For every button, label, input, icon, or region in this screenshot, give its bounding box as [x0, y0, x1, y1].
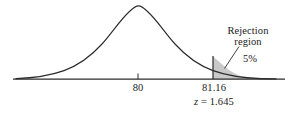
- normal-distribution-figure: Rejection region 5% 80 81.16 z = 1.645: [0, 0, 292, 114]
- axis-tick-label-mean: 80: [124, 82, 152, 93]
- axis-tick-label-critical-value: 81.16: [196, 82, 232, 93]
- rejection-region-label: Rejection region: [216, 25, 280, 48]
- rejection-region-leader-line: [225, 47, 240, 69]
- z-value: = 1.645: [198, 96, 234, 107]
- tail-percent-label: 5%: [243, 53, 257, 64]
- z-critical-label: z = 1.645: [190, 96, 238, 107]
